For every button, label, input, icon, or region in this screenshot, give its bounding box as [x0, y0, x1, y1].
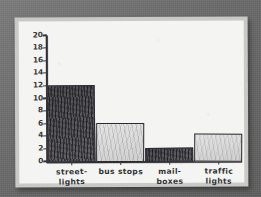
y-axis-tick-label: 14	[19, 69, 43, 78]
x-axis-tick	[120, 162, 121, 165]
y-axis-tick-label-text: 20	[21, 31, 43, 39]
x-axis-category-labels: street- lightsbus stopsmail- boxestraffi…	[19, 21, 244, 22]
y-axis-tick-label: 18	[19, 43, 43, 52]
bar-pencil-shading	[48, 86, 94, 161]
bar-pencil-shading	[146, 149, 192, 161]
y-axis-tick-label-text: 4	[21, 132, 43, 140]
y-axis-tick-label-text: 16	[21, 56, 43, 64]
y-axis-tick-label-text: 6	[21, 119, 43, 127]
bar-bus-stops	[96, 123, 144, 162]
y-axis-tick-label-text: 2	[21, 144, 43, 152]
bar-chart: 20181614121086420 street- lightsbus stop…	[19, 21, 245, 184]
bar-pencil-shading	[195, 134, 241, 160]
bar-mail-boxes	[145, 148, 193, 162]
bar-street-lights	[47, 85, 95, 162]
y-axis-tick-label-text: 0	[21, 157, 43, 165]
y-axis-tick-label-text: 10	[21, 94, 43, 102]
bar-traffic-lights	[194, 133, 242, 161]
x-axis-tick	[218, 162, 219, 165]
y-axis-tick-label: 4	[19, 132, 43, 141]
y-axis-tick-label: 20	[19, 31, 43, 40]
y-axis-tick	[43, 35, 47, 36]
y-axis-tick-label-text: 8	[21, 106, 43, 114]
y-axis-tick-label: 16	[19, 56, 43, 65]
y-axis-tick-label: 12	[19, 81, 43, 90]
y-axis-tick-label-text: 18	[21, 43, 43, 51]
y-axis-ticks: 20181614121086420	[19, 21, 244, 22]
y-axis-tick-label: 8	[19, 106, 43, 115]
x-axis-tick	[71, 162, 72, 165]
paper-sheet: 20181614121086420 street- lightsbus stop…	[15, 16, 249, 187]
bars-group	[19, 21, 244, 22]
y-axis-tick-label: 2	[19, 144, 43, 153]
paper-drawing-surface: 20181614121086420 street- lightsbus stop…	[19, 21, 245, 184]
y-axis-tick-label-text: 14	[21, 69, 43, 77]
y-axis-tick	[43, 60, 47, 61]
y-axis-tick-label: 10	[19, 94, 43, 103]
y-axis-tick	[43, 73, 47, 74]
x-axis-ticks	[19, 21, 244, 22]
x-axis-tick	[169, 162, 170, 165]
x-axis-label-traffic-lights: traffic lights	[190, 166, 247, 186]
y-axis-tick-label: 6	[19, 119, 43, 128]
y-axis-tick-label: 0	[19, 157, 43, 166]
y-axis-tick	[43, 47, 47, 48]
bar-pencil-shading	[97, 124, 143, 161]
y-axis-tick-label-text: 12	[21, 81, 43, 89]
